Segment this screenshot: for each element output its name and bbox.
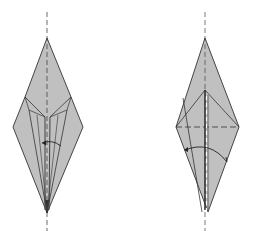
step-left-model (13, 12, 83, 231)
step-right-model (176, 12, 239, 231)
right-paper-outline (176, 38, 239, 212)
origami-diagram (0, 0, 253, 231)
left-paper-outline (13, 38, 83, 213)
